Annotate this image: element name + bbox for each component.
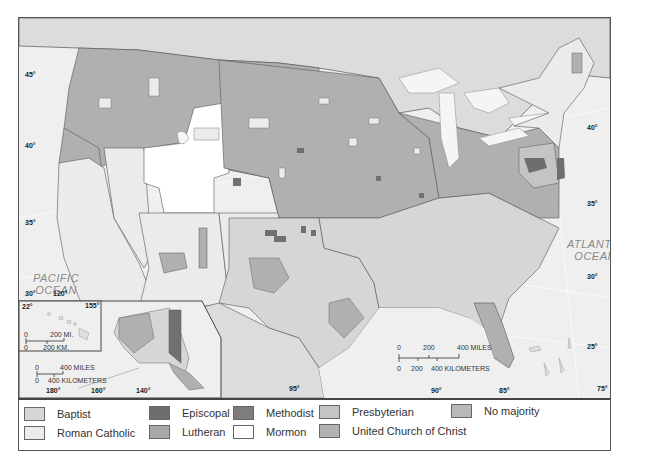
lon-label-120: 120° <box>53 290 67 297</box>
hawaii-lat-label: 22° <box>22 303 33 310</box>
scale-km-400: 400 KILOMETERS <box>431 365 490 372</box>
us-religion-map <box>19 18 610 398</box>
alaska-scale-mi-400: 400 MILES <box>60 364 95 371</box>
map-frame: PACIFIC OCEAN ATLANTIC OCEAN 45° 40° 35°… <box>18 17 611 399</box>
hawaii-scale-mi-0: 0 <box>24 331 28 338</box>
legend-item-presbyterian: Presbyterian <box>319 405 414 419</box>
legend-item-roman-catholic: Roman Catholic <box>24 426 135 440</box>
hawaii-scale-mi-200: 200 MI. <box>50 331 73 338</box>
hawaii-scale-km-200: 200 KM. <box>43 344 69 351</box>
alaska-lon-160: 160° <box>91 387 105 394</box>
hawaii-lon-label: 155° <box>85 302 99 309</box>
alaska-lon-180: 180° <box>46 387 60 394</box>
atlantic-ocean-label: ATLANTIC OCEAN <box>567 238 611 262</box>
presbyterian-swatch <box>319 405 340 419</box>
scale-miles-400: 400 MILES <box>457 344 492 351</box>
episcopal-swatch <box>149 406 170 420</box>
lat-label-30: 30° <box>25 290 36 297</box>
legend-item-united-church-of-christ: United Church of Christ <box>319 424 466 438</box>
alaska-scale-km-400: 400 KILOMETERS <box>48 377 107 384</box>
lat-label-right-30: 30° <box>587 273 598 280</box>
baptist-swatch <box>24 407 45 421</box>
scale-miles-0: 0 <box>397 344 401 351</box>
lon-label-85: 85° <box>499 387 510 394</box>
lutheran-swatch <box>149 425 170 439</box>
mormon-swatch <box>233 425 254 439</box>
legend-item-episcopal: Episcopal <box>149 406 230 420</box>
roman-catholic-swatch <box>24 426 45 440</box>
legend-item-lutheran: Lutheran <box>149 425 225 439</box>
lat-label-right-40: 40° <box>587 124 598 131</box>
legend-item-mormon: Mormon <box>233 425 306 439</box>
methodist-swatch <box>233 406 254 420</box>
scale-km-200: 200 <box>411 365 423 372</box>
lon-label-90: 90° <box>431 387 442 394</box>
lat-label-35: 35° <box>25 219 36 226</box>
scale-miles-200: 200 <box>423 344 435 351</box>
lat-label-right-35: 35° <box>587 200 598 207</box>
alaska-scale-mi-0: 0 <box>35 364 39 371</box>
lat-label-40: 40° <box>25 142 36 149</box>
legend-item-baptist: Baptist <box>24 407 91 421</box>
lon-label-75: 75° <box>597 385 608 392</box>
hawaii-scale-km-0: 0 <box>24 344 28 351</box>
scale-km-0: 0 <box>397 365 401 372</box>
legend: Baptist Roman Catholic Episcopal Luthera… <box>18 398 611 451</box>
no-majority-swatch <box>451 404 472 418</box>
united-church-of-christ-swatch <box>319 424 340 438</box>
lat-label-45: 45° <box>25 71 36 78</box>
alaska-lon-140: 140° <box>136 387 150 394</box>
lat-label-right-25: 25° <box>587 343 598 350</box>
legend-item-no-majority: No majority <box>451 404 540 418</box>
legend-item-methodist: Methodist <box>233 406 314 420</box>
alaska-scale-km-0: 0 <box>35 377 39 384</box>
lon-label-95: 95° <box>289 385 300 392</box>
